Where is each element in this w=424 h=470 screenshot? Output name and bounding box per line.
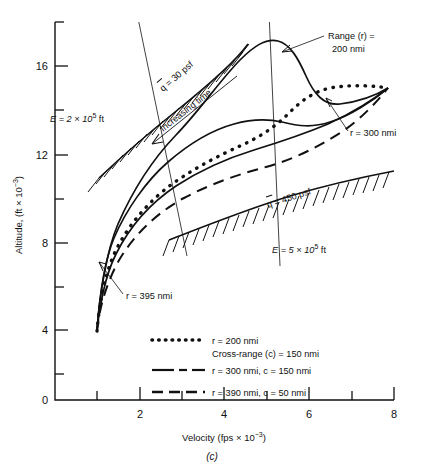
y-tick-label: 4	[42, 324, 48, 336]
legend-label-3-line1: r = 390 nmi, c = 50 nmi	[212, 388, 306, 398]
y-tick-label: 16	[36, 60, 48, 72]
x-tick-label: 8	[391, 408, 397, 420]
trajectory-range-200-solid	[97, 40, 388, 331]
svg-text:200 nmi: 200 nmi	[332, 44, 365, 54]
energy-line-5e5	[269, 12, 280, 266]
y-tick-label: 8	[42, 237, 48, 249]
x-tick-label: 6	[306, 408, 312, 420]
y-axis-title-exp: −3	[12, 179, 19, 187]
constant-energy-lines	[138, 12, 280, 266]
legend-label-1-line1: r = 200 nmi	[212, 336, 258, 346]
y-axis-ticks	[55, 22, 68, 374]
x-axis-title: Velocity (fps × 10−3)	[182, 431, 266, 443]
annotation-qbar-30: q = 30 psf	[156, 57, 196, 94]
annotation-energy-2e5-tail: ft	[96, 114, 104, 124]
svg-text:q = 30 psf: q = 30 psf	[158, 59, 196, 93]
annotation-energy-2e5: E = 2 × 105 ft	[50, 112, 104, 124]
annotation-r-395: r = 395 nmi	[126, 291, 172, 301]
y-axis-title-tail: )	[13, 176, 24, 179]
svg-text:Increasing time: Increasing time	[158, 87, 213, 133]
annotation-range-200: Range (r) = 200 nmi	[328, 31, 375, 54]
svg-text:Altitude, (ft × 10−3): Altitude, (ft × 10−3)	[12, 176, 24, 254]
x-axis-title-tail: )	[263, 432, 266, 443]
x-axis-title-text: Velocity (fps × 10	[182, 432, 255, 443]
figure-container: 16 12 8 4 0 2 4 6 8 Velocity (fps × 10−3…	[0, 0, 424, 470]
x-axis-tick-labels: 2 4 6 8	[137, 408, 397, 420]
leader-range-200	[282, 36, 324, 52]
y-axis-tick-labels: 16 12 8 4 0	[36, 60, 48, 406]
y-axis-title: Altitude, (ft × 10−3)	[12, 176, 24, 254]
x-axis-title-exp: −3	[255, 431, 263, 438]
qbar-450-boundary	[163, 171, 394, 256]
svg-text:q = 450 psf: q = 450 psf	[266, 186, 313, 210]
svg-text:Velocity (fps × 10−3): Velocity (fps × 10−3)	[182, 431, 266, 443]
figure-caption: (c)	[206, 451, 218, 462]
x-tick-label: 4	[221, 408, 227, 420]
y-axis-title-text: Altitude, (ft × 10	[13, 187, 24, 254]
annotation-energy-5e5: E = 5 × 105 ft	[272, 243, 326, 255]
y-origin-label: 0	[42, 394, 48, 406]
annotation-energy-2e5-lead: E = 2 × 10	[50, 114, 93, 124]
altitude-velocity-chart: 16 12 8 4 0 2 4 6 8 Velocity (fps × 10−3…	[0, 0, 424, 470]
annotation-range-200-line2: 200 nmi	[332, 44, 365, 54]
legend-label-1-line2: Cross-range (c) = 150 nmi	[212, 349, 319, 359]
annotation-r-300: r = 300 nmi	[350, 128, 396, 138]
x-tick-label: 2	[137, 408, 143, 420]
legend: r = 200 nmi Cross-range (c) = 150 nmi r …	[152, 336, 319, 398]
annotation-energy-5e5-tail: ft	[318, 245, 326, 255]
svg-text:Range (r) =: Range (r) =	[328, 31, 375, 41]
annotation-range-200-line1: Range (r) =	[328, 31, 375, 41]
legend-label-2-line1: r = 300 nmi, c = 150 nmi	[212, 366, 311, 376]
annotation-energy-5e5-lead: E = 5 × 10	[272, 245, 315, 255]
annotation-increasing-time: Increasing time	[158, 87, 213, 133]
y-tick-label: 12	[36, 149, 48, 161]
annotation-qbar-450: q = 450 psf	[265, 183, 313, 210]
